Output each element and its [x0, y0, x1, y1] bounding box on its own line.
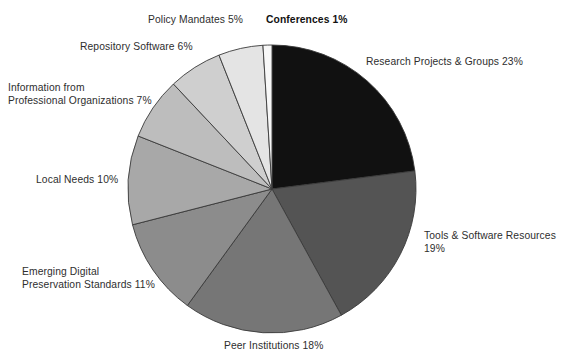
- slice-label-policy-mandates: Policy Mandates 5%: [148, 13, 243, 26]
- slice-label-information-professional-organizations: Information from Professional Organizati…: [8, 81, 152, 107]
- slice-label-research-projects-groups: Research Projects & Groups 23%: [366, 55, 523, 68]
- slice-label-repository-software: Repository Software 6%: [80, 40, 193, 53]
- pie-chart: Policy Mandates 5% Conferences 1% Resear…: [0, 0, 579, 361]
- pie-slice-group: [128, 45, 416, 333]
- slice-label-peer-institutions: Peer Institutions 18%: [224, 339, 323, 352]
- slice-label-local-needs: Local Needs 10%: [36, 173, 118, 186]
- slice-label-emerging-digital-preservation-standards: Emerging Digital Preservation Standards …: [22, 265, 155, 291]
- slice-label-conferences: Conferences 1%: [266, 13, 348, 26]
- slice-label-tools-software-resources: Tools & Software Resources 19%: [424, 229, 579, 255]
